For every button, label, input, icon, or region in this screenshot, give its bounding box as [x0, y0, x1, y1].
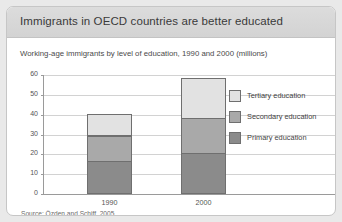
bar-segment-tertiary[interactable]	[181, 78, 226, 119]
y-axis-tick-mark	[41, 95, 44, 96]
bar-segment-secondary[interactable]	[87, 136, 132, 163]
gridline	[44, 194, 336, 195]
y-axis-tick-label: 0	[8, 189, 38, 196]
legend-item[interactable]: Secondary education	[229, 106, 316, 127]
bar-segment-tertiary[interactable]	[87, 114, 132, 137]
source-note: Source: Özden and Schiff, 2005	[21, 210, 114, 216]
x-axis-label-1990: 1990	[75, 198, 145, 207]
bar-segment-secondary[interactable]	[181, 118, 226, 155]
y-axis-tick-mark	[41, 154, 44, 155]
y-axis-tick-label: 20	[8, 149, 38, 156]
y-axis-tick-label: 60	[8, 70, 38, 77]
y-axis-tick-mark	[41, 75, 44, 76]
y-axis-tick-label: 40	[8, 110, 38, 117]
legend-label: Secondary education	[247, 112, 316, 121]
card-header: Immigrants in OECD countries are better …	[7, 7, 335, 38]
y-axis-tick-mark	[41, 135, 44, 136]
chart-card: Immigrants in OECD countries are better …	[6, 6, 336, 216]
y-axis-tick-mark	[41, 174, 44, 175]
legend-swatch-icon	[229, 132, 241, 144]
legend-label: Tertiary education	[247, 91, 305, 100]
legend-item[interactable]: Primary education	[229, 127, 316, 148]
bar-1990[interactable]	[87, 115, 132, 194]
legend-swatch-icon	[229, 111, 241, 123]
plot-area: 010203040506019902000	[43, 76, 224, 195]
chart-legend: Tertiary educationSecondary educationPri…	[229, 85, 316, 148]
bar-segment-primary[interactable]	[87, 161, 132, 194]
bar-segment-primary[interactable]	[181, 153, 226, 194]
page-title: Immigrants in OECD countries are better …	[20, 15, 283, 27]
chart-subtitle: Working-age immigrants by level of educa…	[20, 49, 267, 58]
bar-2000[interactable]	[181, 79, 226, 194]
y-axis-tick-label: 50	[8, 90, 38, 97]
gridline	[44, 75, 336, 76]
x-axis-label-2000: 2000	[169, 198, 239, 207]
y-axis-tick-mark	[41, 194, 44, 195]
y-axis-tick-label: 10	[8, 169, 38, 176]
legend-item[interactable]: Tertiary education	[229, 85, 316, 106]
y-axis-tick-label: 30	[8, 130, 38, 137]
legend-swatch-icon	[229, 90, 241, 102]
y-axis-tick-mark	[41, 115, 44, 116]
legend-label: Primary education	[247, 133, 307, 142]
